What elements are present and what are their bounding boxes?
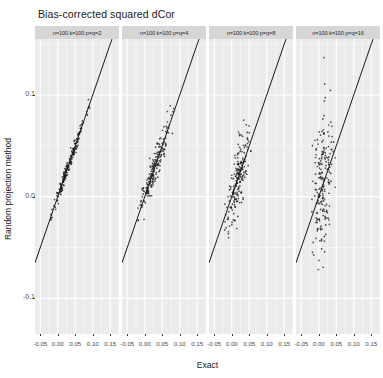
x-tick-label: -0.05 xyxy=(33,340,47,347)
x-tick-label: 0.10 xyxy=(261,340,273,347)
x-tick-mark xyxy=(197,334,198,336)
scatter-points xyxy=(311,57,336,271)
facet-strip-label: n=100 k=100 p=q=8 xyxy=(209,26,293,39)
x-tick-label: 0.00 xyxy=(139,340,151,347)
x-tick-mark xyxy=(58,334,59,336)
x-tick-label: -0.05 xyxy=(294,340,308,347)
x-tick-label: 0.00 xyxy=(52,340,64,347)
y-tick-label: 0.0 xyxy=(9,192,35,199)
facet-plot-area xyxy=(209,39,293,334)
x-tick-label: -0.05 xyxy=(120,340,134,347)
x-tick-label: 0.15 xyxy=(104,340,116,347)
x-tick-mark xyxy=(232,334,233,336)
chart-root: Bias-corrected squared dCor Random proje… xyxy=(0,0,383,378)
facet-plot-area xyxy=(296,39,380,334)
page-title: Bias-corrected squared dCor xyxy=(38,8,175,20)
facet-plot-area xyxy=(122,39,206,334)
x-tick-label: 0.15 xyxy=(365,340,377,347)
x-tick-mark xyxy=(162,334,163,336)
x-tick-label: 0.10 xyxy=(87,340,99,347)
x-tick-mark xyxy=(127,334,128,336)
facet-panel: n=100 k=100 p=q=2 xyxy=(35,26,119,334)
x-tick-mark xyxy=(267,334,268,336)
x-axis-title: Exact xyxy=(35,360,380,370)
x-tick-label: 0.15 xyxy=(278,340,290,347)
x-tick-label: 0.05 xyxy=(69,340,81,347)
x-tick-label: 0.10 xyxy=(174,340,186,347)
facet-x-ticks: -0.050.000.050.100.15 xyxy=(296,334,380,352)
x-tick-mark xyxy=(180,334,181,336)
x-tick-mark xyxy=(319,334,320,336)
y-axis-ticks: -0.10.00.1 xyxy=(6,0,35,378)
x-tick-mark xyxy=(301,334,302,336)
gridlines xyxy=(296,39,380,334)
x-tick-label: 0.05 xyxy=(243,340,255,347)
x-tick-label: 0.15 xyxy=(191,340,203,347)
x-tick-mark xyxy=(75,334,76,336)
facet-x-ticks: -0.050.000.050.100.15 xyxy=(35,334,119,352)
x-tick-label: -0.05 xyxy=(207,340,221,347)
identity-reference-line xyxy=(35,39,119,263)
facet-strip-label: n=100 k=100 p=q=4 xyxy=(122,26,206,39)
identity-reference-line xyxy=(296,39,380,263)
gridlines xyxy=(35,39,119,334)
x-tick-label: 0.05 xyxy=(330,340,342,347)
x-axis-ticks: -0.050.000.050.100.15-0.050.000.050.100.… xyxy=(35,334,380,352)
facet-x-ticks: -0.050.000.050.100.15 xyxy=(209,334,293,352)
x-tick-mark xyxy=(249,334,250,336)
x-tick-label: 0.00 xyxy=(313,340,325,347)
x-tick-mark xyxy=(145,334,146,336)
x-tick-label: 0.10 xyxy=(348,340,360,347)
x-tick-mark xyxy=(354,334,355,336)
facet-x-ticks: -0.050.000.050.100.15 xyxy=(122,334,206,352)
facet-panel: n=100 k=100 p=q=16 xyxy=(296,26,380,334)
facet-panel: n=100 k=100 p=q=8 xyxy=(209,26,293,334)
gridlines xyxy=(122,39,206,334)
x-tick-mark xyxy=(214,334,215,336)
x-tick-mark xyxy=(336,334,337,336)
scatter-points xyxy=(224,119,252,238)
panel-grid: n=100 k=100 p=q=2n=100 k=100 p=q=4n=100 … xyxy=(35,26,380,334)
x-tick-mark xyxy=(110,334,111,336)
y-tick-label: 0.1 xyxy=(9,90,35,97)
x-tick-mark xyxy=(284,334,285,336)
gridlines xyxy=(209,39,293,334)
x-tick-mark xyxy=(40,334,41,336)
facet-panel: n=100 k=100 p=q=4 xyxy=(122,26,206,334)
x-tick-mark xyxy=(371,334,372,336)
facet-strip-label: n=100 k=100 p=q=2 xyxy=(35,26,119,39)
x-tick-label: 0.05 xyxy=(156,340,168,347)
facet-strip-label: n=100 k=100 p=q=16 xyxy=(296,26,380,39)
y-tick-label: -0.1 xyxy=(9,293,35,300)
x-tick-label: 0.00 xyxy=(226,340,238,347)
facet-plot-area xyxy=(35,39,119,334)
x-tick-mark xyxy=(93,334,94,336)
